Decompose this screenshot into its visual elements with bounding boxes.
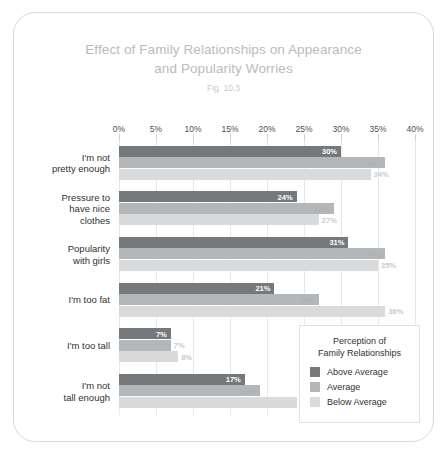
bar-value-label: 29% bbox=[315, 204, 330, 213]
bar: 36% bbox=[119, 306, 385, 317]
bar: 35% bbox=[119, 260, 378, 271]
x-axis-tick bbox=[119, 134, 120, 141]
bar: 34% bbox=[119, 169, 371, 180]
category-label: I'm not pretty enough bbox=[0, 151, 110, 174]
x-axis-tick-label: 20% bbox=[258, 124, 275, 134]
x-axis-tick-label: 10% bbox=[184, 124, 201, 134]
legend-swatch-icon bbox=[310, 397, 320, 407]
bar-group: Popularity with girls31%36%35% bbox=[119, 237, 415, 272]
category-label: I'm too fat bbox=[0, 294, 110, 306]
bar: 27% bbox=[119, 214, 319, 225]
bar-group: Pressure to have nice clothes24%29%27% bbox=[119, 191, 415, 226]
category-label: I'm not tall enough bbox=[0, 380, 110, 403]
x-axis-tick bbox=[267, 134, 268, 141]
bar: 17% bbox=[119, 374, 245, 385]
bar-group: I'm too fat21%27%36% bbox=[119, 283, 415, 318]
category-label: I'm too tall bbox=[0, 340, 110, 352]
legend-item-label: Above Average bbox=[327, 367, 388, 377]
legend-item-label: Below Average bbox=[327, 397, 387, 407]
chart-title: Effect of Family Relationships on Appear… bbox=[14, 40, 433, 78]
bar-value-label: 27% bbox=[300, 295, 315, 304]
legend-swatch-icon bbox=[310, 382, 320, 392]
x-axis-tick bbox=[304, 134, 305, 141]
bar: 29% bbox=[119, 203, 334, 214]
category-label: Popularity with girls bbox=[0, 243, 110, 266]
bar-value-label: 21% bbox=[255, 284, 270, 293]
bar: 36% bbox=[119, 157, 385, 168]
x-axis-tick bbox=[341, 134, 342, 141]
legend-item[interactable]: Below Average bbox=[310, 397, 409, 407]
bar-value-label: 24% bbox=[278, 192, 293, 201]
bar-value-label: 17% bbox=[226, 375, 241, 384]
bar: 7% bbox=[119, 328, 171, 339]
bar: 27% bbox=[119, 294, 319, 305]
x-axis-tick-label: 25% bbox=[295, 124, 312, 134]
chart-figure-number: Fig. 10.3 bbox=[14, 83, 433, 93]
legend-title: Perception of Family Relationships bbox=[310, 335, 409, 359]
bar-value-label: 31% bbox=[329, 238, 344, 247]
bar: 21% bbox=[119, 283, 274, 294]
bar-group: I'm not pretty enough30%36%34% bbox=[119, 146, 415, 181]
bar-value-label: 30% bbox=[322, 147, 337, 156]
chart-legend: Perception of Family Relationships Above… bbox=[299, 325, 420, 423]
bar-value-label: 36% bbox=[366, 249, 381, 258]
bar-value-label: 19% bbox=[241, 386, 256, 395]
bar: 30% bbox=[119, 146, 341, 157]
bar-value-label: 27% bbox=[322, 215, 337, 224]
bar-value-label: 7% bbox=[156, 329, 167, 338]
bar: 36% bbox=[119, 248, 385, 259]
bar: 19% bbox=[119, 385, 260, 396]
x-axis-tick bbox=[193, 134, 194, 141]
x-axis-tick bbox=[378, 134, 379, 141]
x-axis-tick bbox=[415, 134, 416, 141]
bar-value-label: 35% bbox=[381, 261, 396, 270]
x-axis-tick bbox=[156, 134, 157, 141]
bar-value-label: 8% bbox=[181, 352, 192, 361]
chart-card: Effect of Family Relationships on Appear… bbox=[13, 12, 434, 442]
bar: 24% bbox=[119, 397, 297, 408]
x-axis-tick-label: 0% bbox=[113, 124, 125, 134]
bar-value-label: 7% bbox=[174, 341, 185, 350]
bar-value-label: 36% bbox=[366, 158, 381, 167]
category-label: Pressure to have nice clothes bbox=[0, 191, 110, 226]
x-axis-tick-label: 15% bbox=[221, 124, 238, 134]
x-axis-tick-label: 30% bbox=[332, 124, 349, 134]
legend-item[interactable]: Average bbox=[310, 382, 409, 392]
legend-item[interactable]: Above Average bbox=[310, 367, 409, 377]
x-axis-tick-label: 40% bbox=[406, 124, 423, 134]
bar: 7% bbox=[119, 340, 171, 351]
legend-item-label: Average bbox=[327, 382, 360, 392]
bar-value-label: 36% bbox=[388, 307, 403, 316]
bar: 24% bbox=[119, 191, 297, 202]
legend-swatch-icon bbox=[310, 367, 320, 377]
x-axis-tick bbox=[230, 134, 231, 141]
x-axis-tick-label: 5% bbox=[150, 124, 162, 134]
legend-entries: Above AverageAverageBelow Average bbox=[310, 367, 409, 407]
bar: 31% bbox=[119, 237, 348, 248]
x-axis-tick-label: 35% bbox=[369, 124, 386, 134]
chart-title-line-1: Effect of Family Relationships on Appear… bbox=[14, 40, 433, 59]
chart-title-line-2: and Popularity Worries bbox=[14, 59, 433, 78]
bar-value-label: 34% bbox=[374, 170, 389, 179]
bar: 8% bbox=[119, 351, 178, 362]
